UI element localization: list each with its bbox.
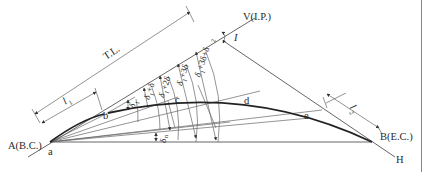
intersection-angle-label: I (233, 32, 238, 43)
point-c-label: c (175, 94, 180, 105)
start-point-label: A(B.C.) (8, 140, 42, 152)
deflection-label-5: δ 1 +3δ+δ 2 (192, 36, 216, 79)
chord-lines (50, 91, 322, 142)
svg-text:+2δ: +2δ (159, 75, 173, 91)
point-h-label: H (396, 154, 404, 165)
curve-diagram: V(I.P.) I T.L. l 1 l 2 A(B.C.) a b c d e… (0, 0, 422, 172)
forward-tangent-line (225, 42, 395, 157)
point-a-label: a (48, 146, 53, 157)
svg-text:n: n (163, 135, 169, 138)
vertex-label: V(I.P.) (243, 11, 272, 23)
svg-text:1: 1 (134, 100, 141, 105)
svg-text:+3δ: +3δ (177, 63, 191, 79)
point-b-label: b (103, 110, 108, 121)
delta-n-label: δ n (158, 135, 169, 143)
last-chord-label: l 2 (346, 102, 361, 115)
svg-text:2: 2 (210, 38, 217, 43)
svg-text:+δ: +δ (144, 81, 156, 93)
deflection-label-3: δ 1 +2δ (156, 75, 174, 99)
deflection-label-4: δ 1 +3δ (174, 63, 192, 87)
svg-text:+3δ+δ: +3δ+δ (195, 46, 212, 71)
point-e-label: e (304, 110, 309, 121)
point-d-label: d (244, 95, 250, 106)
end-point-label: B(E.C.) (380, 131, 413, 143)
